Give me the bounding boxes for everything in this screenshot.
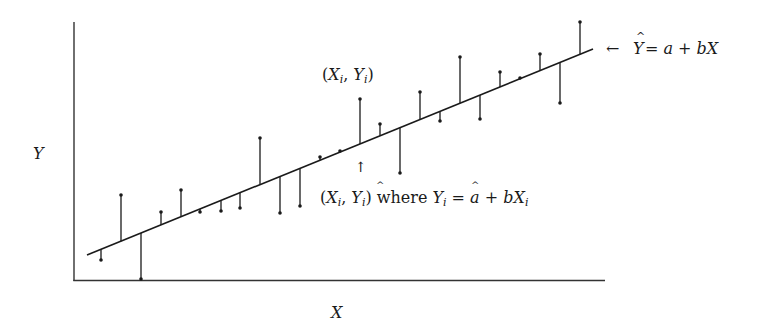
up-arrow-icon: ↑ (355, 159, 367, 175)
data-point (358, 97, 362, 101)
data-point (238, 206, 242, 210)
hat-accent: ^ (376, 179, 384, 190)
x-axis-label: X (329, 303, 343, 322)
data-point (139, 277, 143, 281)
hat-accent: ^ (636, 30, 645, 43)
data-point (498, 70, 502, 74)
hat-accent: ^ (471, 179, 479, 190)
data-point (478, 117, 482, 121)
data-point (258, 136, 262, 140)
data-point (558, 101, 562, 105)
svg-text:(Xi, Yi): (Xi, Yi) (322, 65, 374, 86)
regression-equation-label: ← Y ^ = a + bX (606, 30, 719, 58)
data-point (418, 90, 422, 94)
data-point (458, 55, 462, 59)
data-point (378, 122, 382, 126)
equation-rhs: = a + bX (645, 39, 719, 58)
data-points (99, 20, 582, 281)
observed-point-label: (Xi, Yi) (322, 65, 374, 86)
y-axis-label: Y (33, 144, 45, 163)
data-point (398, 171, 402, 175)
fitted-point-label: (Xi, Yi) where Yi = a + bXi ^ ^ (320, 179, 528, 209)
data-point (318, 155, 322, 159)
data-point (179, 188, 183, 192)
data-point (119, 193, 123, 197)
data-point (198, 210, 202, 214)
data-point (159, 210, 163, 214)
data-point (298, 204, 302, 208)
data-point (99, 258, 103, 262)
data-point (538, 52, 542, 56)
data-point (578, 20, 582, 24)
data-point (219, 209, 223, 213)
left-arrow-icon: ← (606, 39, 619, 58)
data-point (278, 211, 282, 215)
svg-text:(Xi, Yi) where Yi = a + bXi: (Xi, Yi) where Yi = a + bXi (320, 188, 528, 209)
regression-diagram: Y X ← Y ^ = a + bX (Xi, Yi) ↑ (Xi, Yi) w… (0, 0, 777, 334)
data-point (438, 119, 442, 123)
